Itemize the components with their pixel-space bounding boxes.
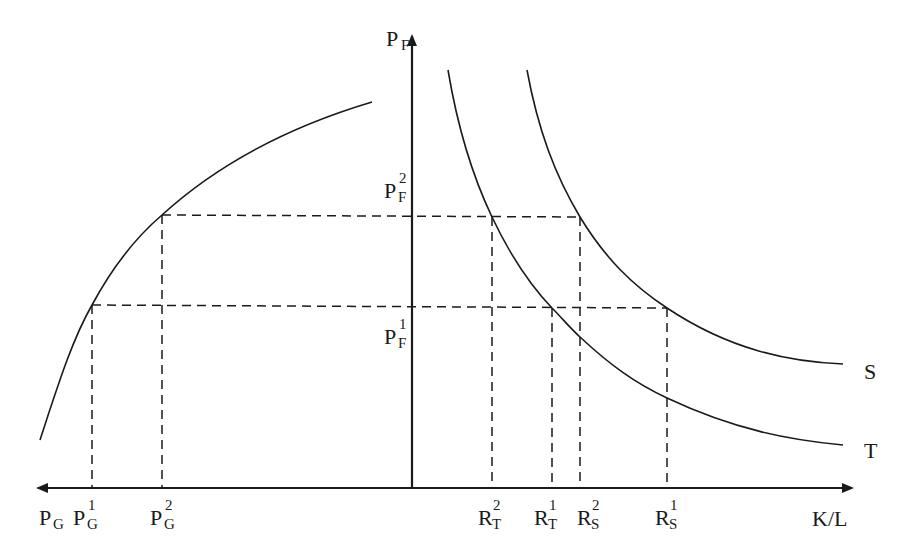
- dash-pf2-horizontal: [162, 215, 580, 217]
- label-rt2: R 2 T: [478, 507, 493, 529]
- label-rt1: R 1 T: [534, 507, 549, 529]
- label-base: R: [478, 505, 493, 530]
- label-sup: 2: [399, 171, 407, 186]
- left-curve: [40, 102, 372, 440]
- label-sup: 2: [592, 498, 600, 513]
- label-sub: S: [591, 517, 599, 532]
- label-base: P: [386, 26, 398, 51]
- label-base: P: [73, 505, 85, 530]
- label-pf2: P 2 F: [384, 180, 396, 202]
- label-pg1: P 1 G: [73, 507, 85, 529]
- label-base: R: [655, 505, 670, 530]
- label-base: P: [384, 324, 396, 349]
- label-rs1: R 1 S: [655, 507, 670, 529]
- label-rs2: R 2 S: [577, 507, 592, 529]
- label-sub: S: [669, 517, 677, 532]
- label-sup: 1: [88, 498, 96, 513]
- label-pg2: P 2 G: [150, 507, 162, 529]
- curve-t: [448, 70, 843, 445]
- label-sub: G: [53, 517, 64, 532]
- label-sup: 2: [165, 498, 173, 513]
- axis-label-pf: P F: [386, 28, 398, 50]
- label-pg: P G: [39, 507, 51, 529]
- label-sup: 1: [670, 498, 678, 513]
- label-base: P: [150, 505, 162, 530]
- label-sup: 2: [493, 498, 501, 513]
- label-pf1: P 1 F: [384, 326, 396, 348]
- diagram-canvas: [0, 0, 916, 560]
- axis-label-kl: K/L: [812, 508, 847, 530]
- label-base: R: [534, 505, 549, 530]
- label-sub: G: [87, 517, 98, 532]
- curve-label-s: S: [864, 361, 876, 383]
- label-sub: T: [548, 517, 557, 532]
- label-base: P: [384, 178, 396, 203]
- label-sub: F: [401, 38, 409, 53]
- label-sup: 1: [549, 498, 557, 513]
- label-sup: 1: [399, 317, 407, 332]
- label-sub: F: [398, 336, 406, 351]
- label-sub: T: [492, 517, 501, 532]
- curve-label-t: T: [864, 440, 877, 462]
- label-base: P: [39, 505, 51, 530]
- label-sub: F: [398, 190, 406, 205]
- label-sub: G: [164, 517, 175, 532]
- label-base: R: [577, 505, 592, 530]
